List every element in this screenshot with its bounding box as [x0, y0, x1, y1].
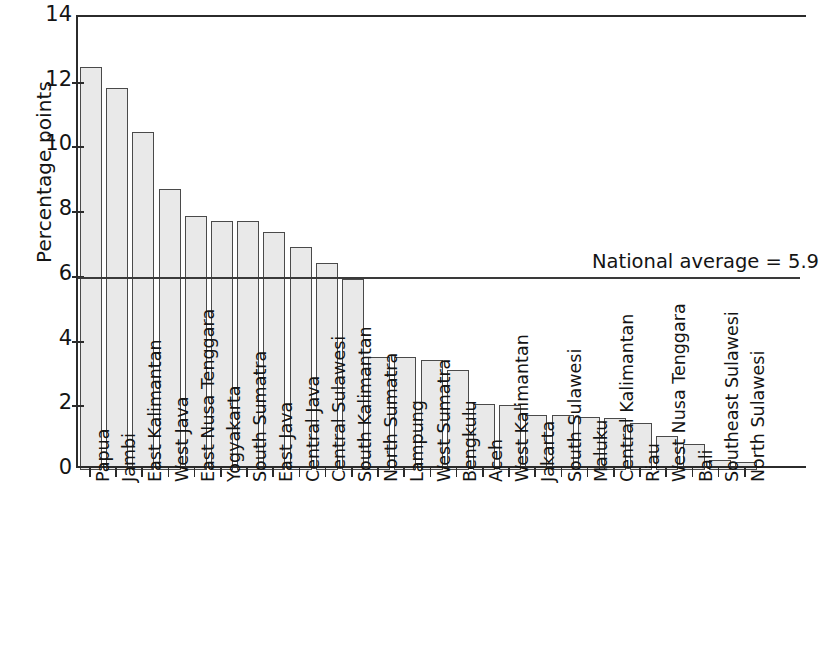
x-axis-tick-mark — [718, 468, 720, 477]
x-axis-tick-mark — [89, 468, 91, 477]
x-axis-tick-mark — [430, 468, 432, 477]
x-axis-tick-mark — [246, 468, 248, 477]
x-axis-category-label: Papua — [95, 429, 113, 482]
x-axis-tick-mark — [377, 468, 379, 477]
x-axis-category-label: Maluku — [593, 420, 611, 482]
x-axis-category-label: West Kalimantan — [514, 334, 532, 482]
x-axis-category-label: Bengkulu — [462, 400, 480, 482]
x-axis-category-label: West Sumatra — [436, 359, 454, 482]
x-axis-category-label: East Kalimantan — [147, 340, 165, 482]
x-axis-category-label: West Java — [174, 396, 192, 482]
x-axis-tick-mark — [665, 468, 667, 477]
x-axis-category-label: Aceh — [488, 439, 506, 482]
x-axis-tick-mark — [325, 468, 327, 477]
x-axis-category-label: Bali — [698, 450, 716, 482]
x-axis-category-label: North Sumatra — [383, 353, 401, 482]
x-axis-category-label: Central Kalimantan — [619, 314, 637, 482]
x-axis-tick-mark — [168, 468, 170, 477]
x-axis-tick-mark — [220, 468, 222, 477]
x-axis-tick-mark — [692, 468, 694, 477]
x-axis-category-label: East Nusa Tenggara — [200, 309, 218, 482]
x-axis-category-label: Jambi — [121, 433, 139, 482]
x-axis-tick-mark — [351, 468, 353, 477]
x-axis-tick-mark — [534, 468, 536, 477]
x-axis-tick-mark — [403, 468, 405, 477]
x-axis-tick-mark — [508, 468, 510, 477]
x-axis-tick-mark — [456, 468, 458, 477]
x-axis-tick-mark — [744, 468, 746, 477]
x-axis-category-label: East Java — [278, 402, 296, 482]
x-axis-tick-mark — [639, 468, 641, 477]
x-axis-tick-mark — [613, 468, 615, 477]
x-axis-category-label: Riau — [645, 443, 663, 482]
x-axis-category-label: South Sumatra — [252, 351, 270, 482]
x-axis-category-label: Lampung — [409, 400, 427, 482]
x-axis-category-label: Southeast Sulawesi — [724, 311, 742, 482]
x-axis-category-label: Central Sulawesi — [331, 336, 349, 482]
x-axis-tick-mark — [482, 468, 484, 477]
x-axis-tick-mark — [115, 468, 117, 477]
x-axis-category-label: Yogyakarta — [226, 385, 244, 482]
x-axis-category-label: South Kalimantan — [357, 326, 375, 482]
x-axis-category-label: North Sulawesi — [750, 351, 768, 482]
x-axis-category-label: South Sulawesi — [567, 349, 585, 482]
x-axis-tick-mark — [194, 468, 196, 477]
x-axis-category-label: Jakarta — [540, 421, 558, 482]
x-axis-tick-mark — [272, 468, 274, 477]
x-axis-tick-mark — [587, 468, 589, 477]
x-axis-category-label: Central Java — [305, 376, 323, 482]
x-axis-tick-mark — [299, 468, 301, 477]
x-axis-tick-mark — [561, 468, 563, 477]
x-axis-category-label: West Nusa Tenggara — [671, 303, 689, 482]
x-axis-tick-mark — [141, 468, 143, 477]
